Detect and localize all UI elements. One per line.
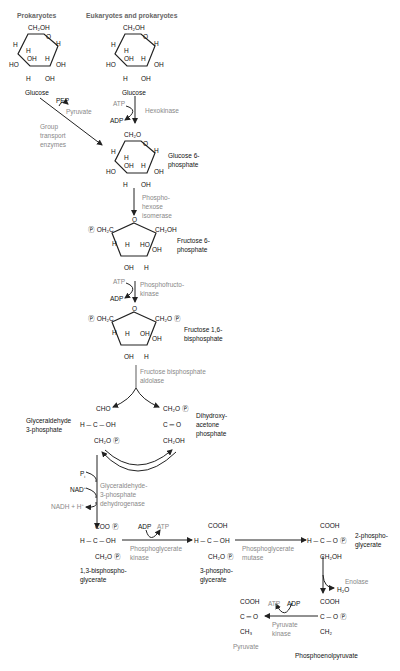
atom-ch2op: CH₂O — [124, 131, 141, 138]
atom-ch2oh: CH₂OH — [320, 553, 342, 560]
enzyme-pgm-line2: mutase — [242, 554, 263, 561]
atom-o: O — [143, 33, 148, 40]
atom-h-c-oh: H ─ C ─ OH — [80, 421, 116, 428]
atom-o: O — [132, 216, 137, 223]
compound-gap: Glyceraldehyde — [26, 417, 71, 424]
atom-h: H — [141, 55, 146, 62]
atom-h: H — [154, 147, 159, 154]
compound-glucose-left: Glucose — [25, 89, 49, 96]
atom-cooh: COOH — [208, 522, 228, 529]
atom-c-eq-o: C ═ O — [240, 613, 258, 620]
enzyme-pgk: Phosphoglycerate — [130, 545, 182, 552]
atom-c-op: C ─ O Ⓟ — [320, 613, 347, 620]
atom-oh: OH — [27, 55, 37, 62]
atom-h: H — [141, 162, 146, 169]
cofactor-pyruvate: Pyruvate — [66, 108, 92, 115]
atom-h: H — [13, 41, 18, 48]
atom-h-c-oh: H ─ C ─ OH — [194, 537, 230, 544]
atom-h: H — [154, 40, 159, 47]
glucose-ring-right — [115, 34, 155, 66]
atom-h: H — [112, 240, 117, 247]
atom-ch2op: CH₂O Ⓟ — [95, 553, 121, 560]
enzyme-pyruvate-kinase: Pyruvate — [272, 621, 298, 628]
enzyme-enolase: Enolase — [345, 578, 369, 585]
atom-ch2oh: CH₂OH — [28, 24, 50, 31]
atom-h: H — [45, 55, 50, 62]
cofactor-adp: ADP — [287, 600, 300, 607]
compound-2pg-line2: glycerate — [355, 541, 381, 548]
compound-pyruvate: Pyruvate — [233, 643, 259, 650]
atom-ho: HO — [9, 61, 19, 68]
enzyme-phosphofructokinase: Phosphofructo- — [140, 281, 184, 288]
compound-gap-line2: 3-phosphate — [26, 426, 62, 433]
enzyme-pgm: Phosphoglycerate — [242, 545, 294, 552]
atom-o: O — [143, 140, 148, 147]
enzyme-pk-line2: kinase — [272, 630, 291, 637]
atom-oh: OH — [124, 353, 134, 360]
atom-oh: OH — [154, 61, 164, 68]
enzyme-group-transport: Group — [40, 123, 58, 130]
atom-ch2op: CH₂O Ⓟ — [155, 315, 181, 322]
cofactor-adp: ADP — [110, 117, 123, 124]
atom-oh: OH — [140, 330, 150, 337]
enzyme-group-transport-line2: transport — [40, 132, 66, 139]
atom-ho: HO — [106, 61, 116, 68]
enzyme-phi-line2: hexose — [142, 203, 163, 210]
cofactor-adp: ADP — [110, 295, 123, 302]
compound-g6p-line2: phosphate — [168, 161, 198, 168]
atom-h: H — [144, 264, 149, 271]
f6p-ring — [112, 223, 156, 256]
atom-ch2op: CH₂O Ⓟ — [163, 405, 189, 412]
atom-oh: OH — [152, 335, 162, 342]
compound-3pg: 3-phospho- — [200, 567, 233, 574]
atom-ch2oh: CH₂OH — [163, 437, 185, 444]
cofactor-nadh: NADH + H+ — [51, 503, 84, 511]
atom-cooh: COOH — [320, 598, 340, 605]
atom-oh: OH — [141, 75, 151, 82]
enzyme-pfk-line2: kinase — [140, 290, 159, 297]
atom-h: H — [111, 41, 116, 48]
atom-oh: OH — [56, 61, 66, 68]
atom-oh: OH — [124, 264, 134, 271]
enzyme-aldolase: Fructose bisphosphate — [140, 368, 206, 375]
compound-f6p-line2: phosphate — [177, 246, 207, 253]
enzyme-group-transport-line3: enzymes — [40, 141, 66, 148]
cofactor-adp: ADP — [138, 523, 151, 530]
atom-o: O — [132, 305, 137, 312]
atom-oh: OH — [45, 75, 55, 82]
atom-cooh: COOH — [240, 598, 260, 605]
atom-h-c-op: H ─ C ─ O Ⓟ — [307, 537, 347, 544]
compound-13bpg-line2: glycerate — [80, 576, 106, 583]
atom-h: H — [125, 241, 130, 248]
atom-oh: OH — [124, 162, 134, 169]
compound-dhap-line3: phosphate — [196, 430, 226, 437]
compound-f6p: Fructose 6- — [177, 237, 210, 244]
atom-h-c-oh: H ─ C ─ OH — [80, 537, 116, 544]
enzyme-gapdh: Glyceraldehyde- — [100, 482, 147, 489]
compound-dhap: Dihydroxy- — [196, 412, 227, 419]
atom-h: H — [112, 329, 117, 336]
atom-poh2c: Ⓟ OH₂C — [88, 226, 114, 233]
atom-c-eq-o: C ═ O — [163, 421, 181, 428]
atom-ch2: CH₂ — [320, 628, 332, 635]
cofactor-h2o: H₂O — [337, 586, 349, 593]
atom-ch2op: CH₂O Ⓟ — [94, 437, 120, 444]
atom-ch2oh: CH₂OH — [155, 226, 177, 233]
atom-poh2c: Ⓟ OH₂C — [88, 315, 114, 322]
atom-h: H — [111, 148, 116, 155]
atom-h: H — [144, 353, 149, 360]
atom-oh: OH — [141, 181, 151, 188]
enzyme-phi-line3: isomerase — [142, 212, 172, 219]
cofactor-pep: PEP — [56, 97, 69, 104]
atom-h: H — [125, 330, 130, 337]
atom-ch3: CH₃ — [240, 628, 252, 635]
atom-h: H — [26, 47, 31, 54]
compound-13bpg: 1,3-bisphospho- — [80, 567, 127, 574]
atom-o: O — [46, 33, 51, 40]
glucose-ring-left — [18, 34, 58, 66]
enzyme-phosphohexose-isomerase: Phospho- — [142, 194, 170, 201]
g6p-ring — [115, 141, 155, 173]
cofactor-atp: ATP — [113, 100, 125, 107]
atom-h: H — [124, 47, 129, 54]
compound-f16bp: Fructose 1,6- — [184, 326, 222, 333]
